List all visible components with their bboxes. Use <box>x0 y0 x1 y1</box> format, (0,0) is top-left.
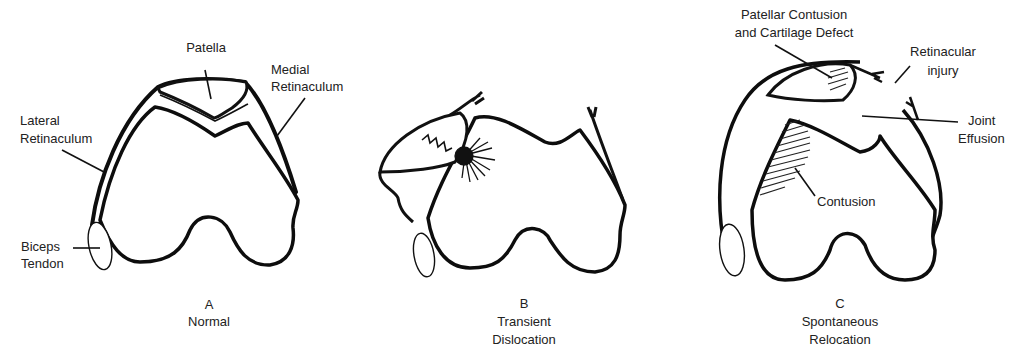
label-retinacular-injury-2: injury <box>927 62 958 79</box>
panel-b-torn-retinaculum-lateral <box>450 92 484 115</box>
label-joint-effusion-1: Joint <box>968 112 995 129</box>
label-biceps-tendon-2: Tendon <box>21 255 64 272</box>
panel-c-letter: C <box>835 295 844 312</box>
panel-a-medial-leader <box>277 98 305 136</box>
panel-c-biceps-tendon <box>716 223 747 278</box>
panel-c-caption-1: Spontaneous <box>802 313 879 330</box>
panel-c-caption-2: Relocation <box>809 331 870 348</box>
panel-b-drawing <box>380 92 625 278</box>
label-patellar-contusion-2: and Cartilage Defect <box>735 24 854 41</box>
panel-b-caption-2: Dislocation <box>492 331 556 348</box>
panel-c-drawing <box>716 45 958 280</box>
label-joint-effusion-2: Effusion <box>958 130 1005 147</box>
panel-a-letter: A <box>205 296 214 313</box>
label-patella: Patella <box>186 39 226 56</box>
panel-a-lateral-leader <box>62 150 104 172</box>
label-biceps-tendon-1: Biceps <box>21 238 60 255</box>
panel-a-drawing <box>62 70 305 272</box>
panel-b-lateral-capsule <box>380 172 413 222</box>
label-lateral-retinaculum-1: Lateral <box>20 112 60 129</box>
panel-b-letter: B <box>520 295 529 312</box>
label-retinacular-injury-1: Retinacular <box>910 43 976 60</box>
label-medial-retinaculum-1: Medial <box>271 61 309 78</box>
label-medial-retinaculum-2: Retinaculum <box>271 78 343 95</box>
label-contusion: Contusion <box>817 193 876 210</box>
panel-a-caption: Normal <box>188 313 230 330</box>
panel-c-retinacular-leader <box>895 66 910 83</box>
label-patellar-contusion-1: Patellar Contusion <box>741 6 847 23</box>
label-lateral-retinaculum-2: Retinaculum <box>20 130 92 147</box>
panel-b-patella <box>380 113 467 172</box>
panel-b-caption-1: Transient <box>497 313 551 330</box>
knee-diagram-canvas <box>0 0 1021 358</box>
